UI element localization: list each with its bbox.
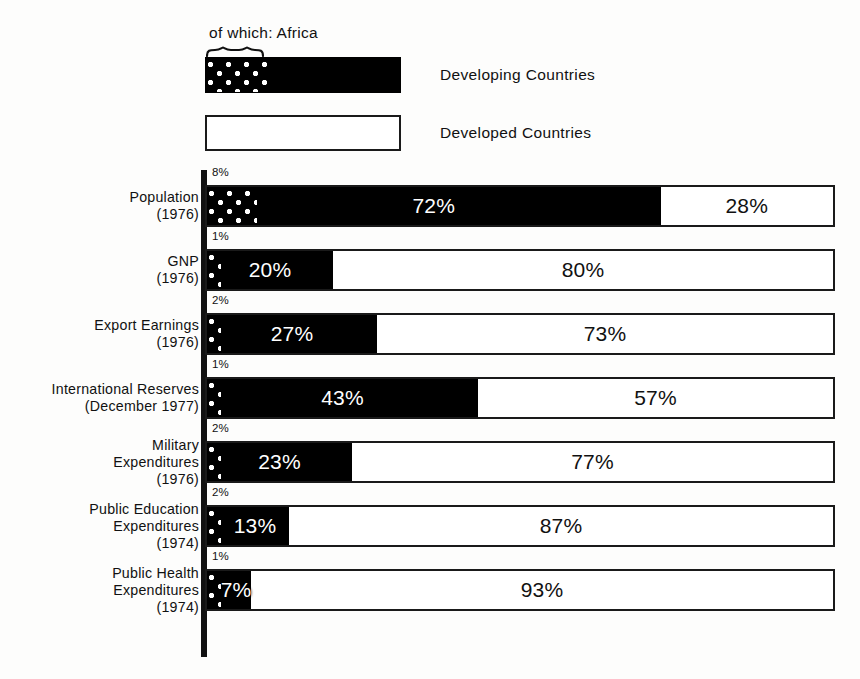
legend-item-developed: Developed Countries — [205, 115, 591, 151]
row-label-line: Military — [113, 437, 199, 454]
stacked-bar: 23%77% — [205, 441, 835, 483]
legend-africa-dot-fill — [206, 58, 268, 92]
row-label-year: (1976) — [156, 270, 199, 287]
segment-value-developed: 80% — [562, 258, 605, 282]
bar-row: MilitaryExpenditures(1976)2%23%77% — [0, 421, 860, 485]
segment-value-developing: 27% — [271, 322, 314, 346]
row-label-year: (1976) — [129, 206, 199, 223]
africa-caption: of which: Africa — [209, 24, 318, 42]
segment-developed: 93% — [251, 571, 833, 609]
segment-value-developed: 93% — [521, 578, 564, 602]
bar-row: International Reserves(December 1977)1%4… — [0, 357, 860, 421]
row-label: Population(1976) — [129, 189, 199, 223]
chart-legend: of which: Africa Developing Countries De… — [0, 0, 860, 165]
segment-value-developed: 57% — [634, 386, 677, 410]
africa-percent-label: 1% — [212, 358, 229, 370]
segment-africa-dots — [207, 443, 221, 481]
segment-value-developed: 87% — [540, 514, 583, 538]
row-label-line: GNP — [156, 253, 199, 270]
segment-value-developing: 43% — [321, 386, 364, 410]
segment-developing: 20% — [207, 251, 333, 289]
africa-percent-label: 2% — [212, 294, 229, 306]
stacked-bar-chart: of which: Africa Developing Countries De… — [0, 0, 860, 679]
segment-africa-dots — [207, 187, 257, 225]
row-label-line: Export Earnings — [94, 317, 199, 334]
row-label: Public EducationExpenditures(1974) — [89, 501, 199, 552]
segment-africa-dots — [207, 571, 221, 609]
row-label-line: Expenditures — [112, 582, 199, 599]
row-label-line: International Reserves — [52, 381, 199, 398]
segment-developing: 72% — [207, 187, 661, 225]
stacked-bar: 27%73% — [205, 313, 835, 355]
bar-rows: Population(1976)8%72%28%GNP(1976)1%20%80… — [0, 165, 860, 613]
row-label-year: (1974) — [112, 599, 199, 616]
segment-value-developing: 23% — [258, 450, 301, 474]
row-label-year: (December 1977) — [52, 398, 199, 415]
row-label: Export Earnings(1976) — [94, 317, 199, 351]
africa-percent-label: 8% — [212, 166, 229, 178]
africa-percent-label: 1% — [212, 230, 229, 242]
segment-developed: 73% — [377, 315, 833, 353]
segment-africa-dots — [207, 251, 221, 289]
row-label-line: Expenditures — [113, 454, 199, 471]
segment-africa-dots — [207, 379, 221, 417]
legend-swatch-developed — [205, 115, 401, 151]
africa-brace-icon — [206, 46, 272, 57]
segment-developed: 57% — [478, 379, 833, 417]
africa-percent-label: 2% — [212, 422, 229, 434]
row-label: Public HealthExpenditures(1974) — [112, 565, 199, 616]
legend-item-developing: Developing Countries — [205, 57, 595, 93]
stacked-bar: 43%57% — [205, 377, 835, 419]
segment-value-developing: 72% — [412, 194, 455, 218]
segment-developed: 28% — [661, 187, 833, 225]
plot-area: Population(1976)8%72%28%GNP(1976)1%20%80… — [0, 165, 860, 665]
segment-value-developed: 77% — [571, 450, 614, 474]
segment-developing: 7% — [207, 571, 251, 609]
segment-developing: 13% — [207, 507, 289, 545]
segment-developed: 87% — [289, 507, 833, 545]
stacked-bar: 13%87% — [205, 505, 835, 547]
bar-row: Public EducationExpenditures(1974)2%13%8… — [0, 485, 860, 549]
stacked-bar: 20%80% — [205, 249, 835, 291]
row-label-line: Population — [129, 189, 199, 206]
segment-developed: 80% — [333, 251, 833, 289]
segment-value-developed: 73% — [584, 322, 627, 346]
segment-value-developing: 20% — [249, 258, 292, 282]
africa-percent-label: 1% — [212, 550, 229, 562]
stacked-bar: 72%28% — [205, 185, 835, 227]
legend-label-developed: Developed Countries — [440, 124, 591, 142]
segment-developing: 43% — [207, 379, 478, 417]
bar-row: Public HealthExpenditures(1974)1%7%93% — [0, 549, 860, 613]
segment-developed: 77% — [352, 443, 833, 481]
segment-value-developing: 7% — [221, 578, 252, 602]
segment-developing: 23% — [207, 443, 352, 481]
legend-label-developing: Developing Countries — [440, 66, 595, 84]
row-label: International Reserves(December 1977) — [52, 381, 199, 415]
segment-value-developing: 13% — [234, 514, 277, 538]
segment-africa-dots — [207, 507, 221, 545]
legend-swatch-developing — [205, 57, 401, 93]
row-label-line: Expenditures — [89, 518, 199, 535]
bar-row: Export Earnings(1976)2%27%73% — [0, 293, 860, 357]
segment-value-developed: 28% — [725, 194, 768, 218]
segment-africa-dots — [207, 315, 221, 353]
row-label-line: Public Education — [89, 501, 199, 518]
bar-row: Population(1976)8%72%28% — [0, 165, 860, 229]
africa-percent-label: 2% — [212, 486, 229, 498]
segment-developing: 27% — [207, 315, 377, 353]
row-label-line: Public Health — [112, 565, 199, 582]
row-label: GNP(1976) — [156, 253, 199, 287]
stacked-bar: 7%93% — [205, 569, 835, 611]
row-label-year: (1976) — [94, 334, 199, 351]
bar-row: GNP(1976)1%20%80% — [0, 229, 860, 293]
row-label: MilitaryExpenditures(1976) — [113, 437, 199, 488]
